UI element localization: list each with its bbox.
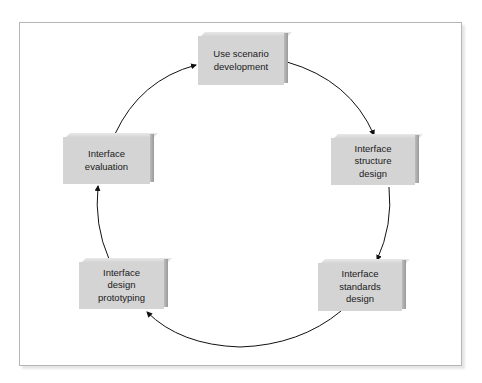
arrow-evaluation-to-scenario (115, 65, 196, 134)
node-label: Interface design prototyping (79, 262, 164, 309)
node-interface-design-prototyping: Interface design prototyping (79, 262, 164, 309)
node-use-scenario-development: Use scenario development (198, 36, 284, 85)
node-label: Interface structure design (331, 138, 415, 185)
node-label: Use scenario development (198, 36, 284, 85)
node-interface-structure-design: Interface structure design (331, 138, 415, 185)
node-label: Interface standards design (318, 263, 402, 311)
arrow-structure-to-standards (377, 187, 390, 260)
arrow-scenario-to-structure (287, 62, 374, 135)
node-interface-standards-design: Interface standards design (318, 263, 402, 311)
node-label: Interface evaluation (63, 137, 150, 184)
arrow-prototyping-to-evaluation (97, 186, 109, 259)
node-interface-evaluation: Interface evaluation (63, 137, 150, 184)
arrow-standards-to-prototyping (147, 311, 341, 347)
